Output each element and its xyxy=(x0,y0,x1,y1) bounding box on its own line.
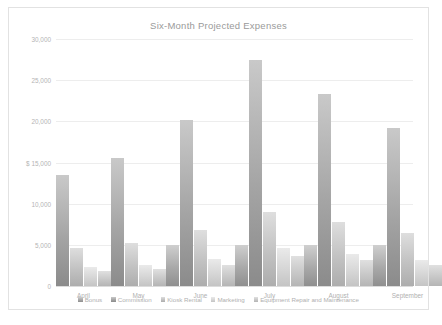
chart-container: Six-Month Projected Expenses 30,00025,00… xyxy=(8,7,429,310)
y-axis-tick-label: 0 xyxy=(47,283,51,290)
bar[interactable] xyxy=(401,233,414,286)
bar[interactable] xyxy=(291,256,304,286)
bar[interactable] xyxy=(166,245,179,286)
legend-label: Marketing xyxy=(217,296,244,303)
bar-group: April xyxy=(56,39,111,286)
bar[interactable] xyxy=(429,265,442,286)
legend-label: Kiosk Rental xyxy=(167,296,202,303)
bar-group: June xyxy=(166,39,235,286)
bar[interactable] xyxy=(277,248,290,286)
bar[interactable] xyxy=(415,260,428,286)
plot-area: 30,00025,00020,000$ 15,00010,0005,0000 A… xyxy=(56,39,413,286)
y-axis-tick-label: 5,000 xyxy=(35,241,51,248)
legend-swatch-icon xyxy=(254,297,259,302)
legend-item[interactable]: Commission xyxy=(111,296,152,303)
legend-label: Equipment Repair and Maintenance xyxy=(260,296,359,303)
bar[interactable] xyxy=(346,254,359,286)
bar[interactable] xyxy=(263,212,276,286)
legend-label: Bonus xyxy=(85,296,103,303)
bar[interactable] xyxy=(387,128,400,286)
y-axis-tick-label: 10,000 xyxy=(31,200,51,207)
legend-item[interactable]: Kiosk Rental xyxy=(161,296,202,303)
legend-swatch-icon xyxy=(211,297,216,302)
legend-swatch-icon xyxy=(161,297,166,302)
bar[interactable] xyxy=(222,265,235,286)
bar-group: September xyxy=(373,39,442,286)
y-axis-tick-label: 25,000 xyxy=(31,77,51,84)
bar[interactable] xyxy=(180,120,193,286)
bar[interactable] xyxy=(70,248,83,286)
bar[interactable] xyxy=(139,265,152,286)
legend-item[interactable]: Equipment Repair and Maintenance xyxy=(254,296,359,303)
bar[interactable] xyxy=(194,230,207,286)
bar[interactable] xyxy=(318,94,331,286)
bar-group: August xyxy=(304,39,373,286)
bar[interactable] xyxy=(111,158,124,286)
chart-legend: BonusCommissionKiosk RentalMarketingEqui… xyxy=(9,296,428,303)
legend-label: Commission xyxy=(118,296,152,303)
chart-title: Six-Month Projected Expenses xyxy=(9,20,428,31)
bar[interactable] xyxy=(56,175,69,286)
legend-item[interactable]: Marketing xyxy=(211,296,245,303)
bar[interactable] xyxy=(153,269,166,286)
bar[interactable] xyxy=(249,60,262,286)
bar-group: May xyxy=(111,39,166,286)
bar[interactable] xyxy=(208,259,221,286)
bar-group: July xyxy=(235,39,304,286)
legend-swatch-icon xyxy=(78,297,83,302)
bar[interactable] xyxy=(360,260,373,286)
bar[interactable] xyxy=(304,245,317,286)
y-axis-tick-label: 30,000 xyxy=(31,36,51,43)
bar[interactable] xyxy=(332,222,345,286)
bar[interactable] xyxy=(125,243,138,286)
legend-swatch-icon xyxy=(111,297,116,302)
bar[interactable] xyxy=(235,245,248,286)
bar[interactable] xyxy=(84,267,97,286)
gridline xyxy=(56,286,413,287)
y-axis-tick-label: 20,000 xyxy=(31,118,51,125)
legend-item[interactable]: Bonus xyxy=(78,296,102,303)
bar[interactable] xyxy=(98,271,111,286)
bar[interactable] xyxy=(373,245,386,286)
bar-groups: AprilMayJuneJulyAugustSeptember xyxy=(56,39,413,286)
y-axis-tick-label: $ 15,000 xyxy=(26,159,51,166)
